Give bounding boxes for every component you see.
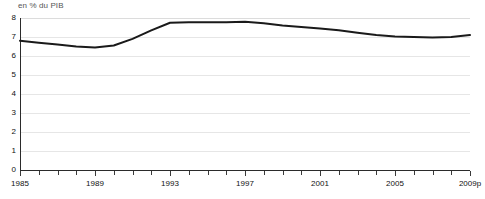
chart-container: en % du PIB 8 7 6 5 4 3 2 1 0 1985198919… (0, 0, 485, 199)
series-layer (0, 0, 485, 199)
data-line-series-0 (20, 22, 470, 48)
